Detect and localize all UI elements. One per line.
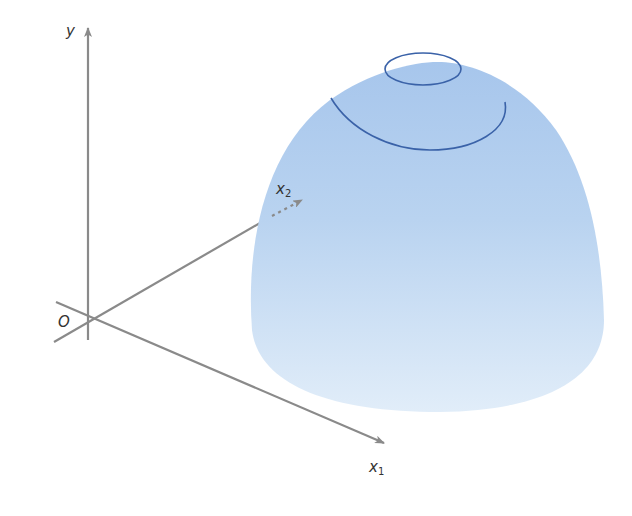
y-axis-label: y <box>66 24 75 39</box>
x1-axis-label: x1 <box>369 460 384 477</box>
origin-label: O <box>58 315 70 330</box>
x2-axis-label: x2 <box>276 182 291 199</box>
diagram-svg <box>0 0 632 516</box>
dome-surface <box>251 62 604 412</box>
x2-axis <box>54 216 272 342</box>
figure-canvas: y O x2 x1 <box>0 0 632 516</box>
